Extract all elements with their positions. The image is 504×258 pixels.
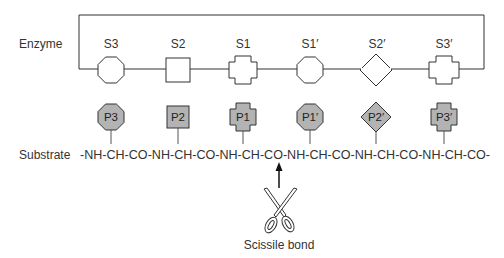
subsite-label-s2-prime: S2′	[369, 37, 387, 51]
residue-label-p1: P1	[236, 111, 250, 123]
enzyme-label: Enzyme	[19, 37, 63, 51]
subsite-label-s2: S2	[171, 37, 186, 51]
subsite-label-s1-prime: S1′	[302, 37, 320, 51]
scissile-bond-label: Scissile bond	[244, 238, 315, 252]
peptide-chain: -NH-CH-CO-NH-CH-CO-NH-CH-CO-NH-CH-CO-NH-…	[80, 148, 490, 162]
protease-subsite-diagram: Enzyme S3 S2 S1 S1′ S2′ S3′ P	[0, 0, 504, 258]
substrate-label: Substrate	[19, 148, 71, 162]
residue-label-p2-prime: P2′	[368, 111, 384, 123]
residue-label-p1-prime: P1′	[302, 111, 318, 123]
scissors-icon	[262, 188, 297, 235]
enzyme-outline	[79, 15, 484, 69]
residue-label-p3-prime: P3′	[436, 111, 452, 123]
subsite-label-s3: S3	[104, 37, 119, 51]
subsite-label-s1: S1	[236, 37, 251, 51]
residue-label-p2: P2	[171, 111, 185, 123]
arrow-up-icon	[276, 162, 283, 188]
residue-label-p3: P3	[104, 111, 118, 123]
subsite-label-s3-prime: S3′	[436, 37, 454, 51]
